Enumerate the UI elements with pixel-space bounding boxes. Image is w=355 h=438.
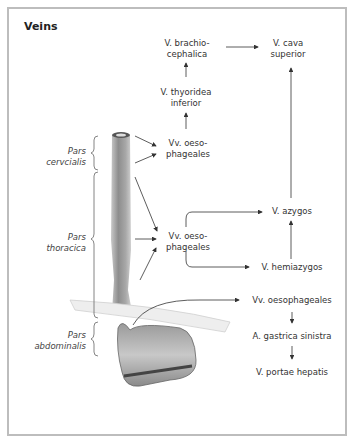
node-cava-superior: V. cavasuperior (264, 38, 312, 60)
node-portae-hepatis: V. portae hepatis (252, 367, 332, 378)
node-hemiazygos: V. hemiazygos (254, 262, 330, 273)
part-label-cervicalis: Parscervcialis (30, 146, 86, 168)
part-label-thoracica: Parsthoracica (30, 232, 86, 254)
node-oesophageales-thoracic: Vv. oeso-phageales (160, 231, 216, 253)
node-oesophageales-cervical: Vv. oeso-phageales (160, 138, 216, 160)
part-label-abdominalis: Parsabdominalis (20, 330, 86, 352)
node-gastrica-sinistra: A. gastrica sinistra (247, 331, 337, 342)
node-thyroidea-inferior: V. thyorideainferior (152, 87, 220, 109)
node-oesophageales-abdominal: Vv. oesophageales (243, 295, 341, 306)
node-brachiocephalica: V. brachio-cephalica (156, 38, 218, 60)
node-azygos: V. azygos (264, 206, 320, 217)
part-braces (91, 136, 98, 356)
